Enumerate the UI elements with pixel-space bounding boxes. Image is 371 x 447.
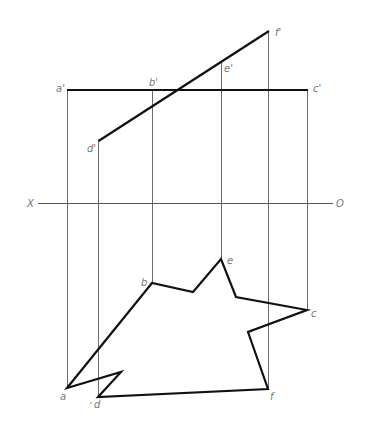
label-b: b (141, 277, 147, 288)
label-f: f (270, 391, 275, 402)
label-c-prime: c' (313, 83, 321, 94)
label-a-prime: a' (56, 83, 65, 94)
label-e-prime: e' (224, 63, 233, 74)
plan-polygon (67, 259, 307, 397)
label-c: c (311, 308, 317, 319)
axis-label-x: X (26, 198, 35, 209)
axis-label-o: O (336, 198, 344, 209)
label-b-prime: b' (149, 77, 158, 88)
orthographic-projection-diagram: X O a' b' c' d' e' f' a b c d e f (0, 0, 371, 447)
front-view: a' b' c' d' e' f' (56, 27, 321, 154)
label-d: d (94, 399, 101, 410)
line-d-prime-f-prime (99, 31, 270, 141)
label-d-prime: d' (87, 143, 96, 154)
label-f-prime: f' (275, 27, 281, 38)
label-d-dot (90, 402, 92, 404)
label-a: a (60, 391, 66, 402)
label-e: e (227, 255, 233, 266)
